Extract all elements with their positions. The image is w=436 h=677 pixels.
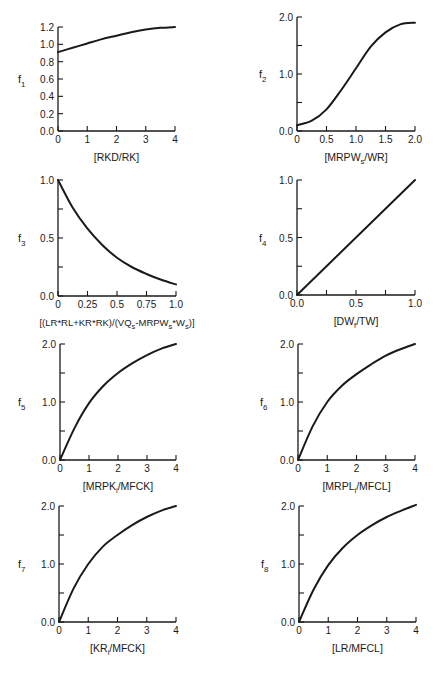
y-tick-label: 0.0 <box>40 291 54 302</box>
curve-f4 <box>297 180 415 295</box>
x-tick-label: 0.0 <box>290 298 304 309</box>
y-tick-label: 0.0 <box>42 455 56 466</box>
chart-f3: 0.00.51.000.250.50.751.0f3[(LR*RL+KR*RK)… <box>18 175 195 331</box>
x-axis-label: [RKD/RK] <box>94 151 140 163</box>
y-tick-label: 1.0 <box>42 397 56 408</box>
y-tick-label: 1.0 <box>40 175 54 186</box>
x-tick-label: 2 <box>355 625 361 636</box>
y-tick-label: 1.0 <box>281 559 295 570</box>
x-tick-label: 3 <box>383 463 389 474</box>
x-tick-label: 4 <box>173 463 179 474</box>
x-tick-label: 1 <box>86 463 92 474</box>
y-axis-label: f4 <box>259 232 267 248</box>
curve-f8 <box>299 505 416 622</box>
x-tick-label: 2 <box>115 625 121 636</box>
y-axis-label: f6 <box>260 396 268 412</box>
y-tick-label: 0.5 <box>40 233 54 244</box>
x-axis-label: [KRi/MFCK] <box>90 642 145 657</box>
y-tick-label: 1.0 <box>280 397 294 408</box>
x-axis-label: [MRPWs/WR] <box>324 151 387 166</box>
curve-f5 <box>60 344 176 460</box>
x-tick-label: 2 <box>114 134 120 145</box>
chart-f4: 0.00.51.00.00.51.0f4[DWf/TW] <box>259 175 422 330</box>
x-tick-label: 1 <box>85 625 91 636</box>
x-axis-label: [MRPKi/MFCK] <box>83 480 154 495</box>
y-tick-label: 0.0 <box>280 455 294 466</box>
x-tick-label: 4 <box>413 625 419 636</box>
y-tick-label: 1.0 <box>279 175 293 186</box>
x-tick-label: 0.75 <box>137 299 157 310</box>
y-axis-label: f7 <box>18 558 26 574</box>
y-axis-label: f5 <box>18 396 26 412</box>
chart-f8: 0.01.02.001234f8[LR/MFCL] <box>261 501 419 654</box>
x-tick-label: 3 <box>144 463 150 474</box>
x-tick-label: 3 <box>143 134 149 145</box>
y-tick-label: 1.0 <box>41 559 55 570</box>
x-tick-label: 2 <box>115 463 121 474</box>
curve-f3 <box>58 180 176 284</box>
chart-f1: 0.00.20.40.60.81.01.201234f1[RKD/RK] <box>18 22 178 163</box>
x-tick-label: 1.0 <box>408 298 422 309</box>
x-tick-label: 3 <box>144 625 150 636</box>
y-tick-label: 0.0 <box>279 126 293 137</box>
y-tick-label: 0.0 <box>40 126 54 137</box>
chart-f7: 0.01.02.001234f7[KRi/MFCK] <box>18 501 179 657</box>
y-tick-label: 2.0 <box>42 339 56 350</box>
x-axis-label: [LR/MFCL] <box>332 642 383 654</box>
x-tick-label: 0.5 <box>349 298 363 309</box>
x-tick-label: 0 <box>57 463 63 474</box>
y-axis-label: f8 <box>261 558 269 574</box>
y-axis-label: f3 <box>18 232 26 248</box>
y-tick-label: 2.0 <box>41 501 55 512</box>
x-tick-label: 1.0 <box>349 134 363 145</box>
y-tick-label: 0.0 <box>41 617 55 628</box>
x-tick-label: 0 <box>295 463 301 474</box>
chart-f2: 0.01.02.000.51.01.52.0f2[MRPWs/WR] <box>259 12 422 166</box>
y-tick-label: 1.2 <box>40 22 54 33</box>
x-tick-label: 1.0 <box>169 299 183 310</box>
y-axis-label: f2 <box>259 68 267 84</box>
chart-f5: 0.01.02.001234f5[MRPKi/MFCK] <box>18 339 179 495</box>
x-axis-label: [(LR*RL+KR*RK)/(VQs-MRPWs*Ws)] <box>39 317 194 331</box>
x-axis-label: [DWf/TW] <box>334 315 379 330</box>
x-tick-label: 4 <box>173 625 179 636</box>
curve-f2 <box>297 23 415 126</box>
y-tick-label: 0.2 <box>40 109 54 120</box>
x-tick-label: 0 <box>296 625 302 636</box>
x-tick-label: 0 <box>294 134 300 145</box>
x-tick-label: 1 <box>325 625 331 636</box>
x-tick-label: 0 <box>55 134 61 145</box>
function-chart-grid: 0.00.20.40.60.81.01.201234f1[RKD/RK]0.01… <box>0 0 436 677</box>
y-tick-label: 1.0 <box>279 69 293 80</box>
x-tick-label: 0.5 <box>320 134 334 145</box>
y-tick-label: 0.6 <box>40 74 54 85</box>
x-tick-label: 0 <box>55 299 61 310</box>
x-axis-label: [MRPLi/MFCL] <box>322 480 390 495</box>
y-tick-label: 2.0 <box>280 339 294 350</box>
x-tick-label: 2 <box>354 463 360 474</box>
x-tick-label: 4 <box>412 463 418 474</box>
y-tick-label: 0.4 <box>40 91 54 102</box>
x-tick-label: 1 <box>84 134 90 145</box>
y-tick-label: 2.0 <box>281 501 295 512</box>
y-tick-label: 0.5 <box>279 233 293 244</box>
curve-f7 <box>59 506 176 622</box>
x-tick-label: 0.25 <box>78 299 98 310</box>
x-tick-label: 1 <box>324 463 330 474</box>
y-tick-label: 0.8 <box>40 57 54 68</box>
y-tick-label: 2.0 <box>279 12 293 23</box>
y-axis-label: f1 <box>18 73 26 89</box>
x-tick-label: 3 <box>384 625 390 636</box>
x-tick-label: 0.5 <box>110 299 124 310</box>
x-tick-label: 2.0 <box>408 134 422 145</box>
x-tick-label: 0 <box>56 625 62 636</box>
curve-f1 <box>58 27 175 52</box>
y-tick-label: 0.0 <box>281 617 295 628</box>
y-tick-label: 1.0 <box>40 39 54 50</box>
curve-f6 <box>298 344 415 460</box>
chart-f6: 0.01.02.001234f6[MRPLi/MFCL] <box>260 339 418 495</box>
x-tick-label: 4 <box>172 134 178 145</box>
x-tick-label: 1.5 <box>379 134 393 145</box>
